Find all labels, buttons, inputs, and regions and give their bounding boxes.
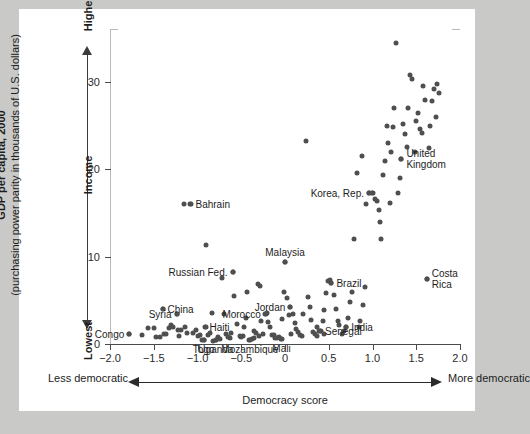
- x-tick: [110, 345, 111, 350]
- data-point: [392, 106, 397, 111]
- data-point: [234, 321, 239, 326]
- data-point: [352, 237, 357, 242]
- data-point: [347, 300, 352, 305]
- data-point: [360, 154, 365, 159]
- data-point: [318, 328, 323, 333]
- data-point: [394, 40, 399, 45]
- data-point: [332, 293, 337, 298]
- y-tick: [105, 344, 111, 345]
- democracy-arrow-line: [138, 382, 432, 383]
- data-point: [181, 202, 186, 207]
- data-point: [433, 115, 438, 120]
- data-point: [430, 99, 435, 104]
- data-point: [428, 123, 433, 128]
- data-point: [419, 130, 424, 135]
- data-point: [309, 318, 314, 323]
- data-point: [388, 200, 393, 205]
- data-point: [164, 332, 169, 337]
- data-point: [360, 302, 365, 307]
- data-point: [416, 110, 421, 115]
- data-point: [374, 198, 379, 203]
- data-point: [183, 324, 188, 329]
- point-label: Bahrain: [196, 199, 230, 210]
- data-point: [329, 280, 334, 285]
- x-tick: [329, 345, 330, 350]
- data-point: [185, 330, 190, 335]
- x-tick-label: −1.0: [187, 352, 209, 364]
- data-point: [324, 291, 329, 296]
- data-point: [409, 76, 414, 81]
- arrow-right-icon: [431, 377, 442, 387]
- data-point: [435, 81, 440, 86]
- data-point: [395, 190, 400, 195]
- x-tick-label: 2.0: [452, 352, 467, 364]
- data-point: [333, 307, 338, 312]
- data-point: [256, 334, 261, 339]
- data-point: [382, 158, 387, 163]
- data-point: [257, 284, 262, 289]
- point-label: Costa Rica: [432, 268, 458, 290]
- y-tick: [105, 257, 111, 258]
- point-label: Brazil: [336, 277, 361, 288]
- plot-frame-top-right-tick: [452, 29, 460, 30]
- data-point: [230, 269, 235, 274]
- x-tick-label: −1.5: [143, 352, 165, 364]
- data-point: [127, 331, 132, 336]
- x-tick-label: 0.5: [321, 352, 336, 364]
- y-tick-label: 30: [0, 76, 100, 88]
- data-point: [268, 324, 273, 329]
- data-point: [437, 90, 442, 95]
- data-point: [371, 190, 376, 195]
- x-tick: [373, 345, 374, 350]
- data-point: [402, 132, 407, 137]
- data-point: [346, 315, 351, 320]
- data-point: [431, 87, 436, 92]
- data-point: [145, 326, 150, 331]
- data-point: [388, 149, 393, 154]
- x-tick: [241, 345, 242, 350]
- x-tick-label: −0.5: [230, 352, 252, 364]
- y-tick-label: 0: [0, 338, 100, 350]
- data-point: [367, 190, 372, 195]
- data-point: [424, 277, 429, 282]
- data-point: [232, 293, 237, 298]
- point-label: Malaysia: [265, 247, 304, 258]
- data-point: [362, 285, 367, 290]
- y-tick-label: 10: [0, 251, 100, 263]
- plot-area: CongoSyriaChinaBahrainRussian Fed.HaitiT…: [110, 29, 460, 344]
- data-point: [381, 172, 386, 177]
- data-point: [401, 122, 406, 127]
- data-point: [364, 202, 369, 207]
- x-tick: [460, 345, 461, 350]
- data-point: [204, 243, 209, 248]
- data-point: [193, 328, 198, 333]
- data-point: [350, 289, 355, 294]
- data-point: [261, 332, 266, 337]
- data-point: [177, 334, 182, 339]
- democracy-direction-arrow: [110, 375, 460, 391]
- data-point: [292, 321, 297, 326]
- x-axis-title: Democracy score: [110, 394, 460, 406]
- data-point: [209, 311, 214, 316]
- point-label: United Kingdom: [406, 148, 445, 170]
- x-tick: [198, 345, 199, 350]
- data-point: [284, 295, 289, 300]
- data-point: [390, 125, 395, 130]
- data-point: [305, 294, 310, 299]
- label-less-democratic: Less democratic: [48, 372, 128, 384]
- data-point: [421, 84, 426, 89]
- data-point: [379, 237, 384, 242]
- data-point: [314, 334, 319, 339]
- point-label: Korea, Rep.: [311, 187, 364, 198]
- data-point: [406, 106, 411, 111]
- data-point: [201, 337, 206, 342]
- data-point: [322, 307, 327, 312]
- data-point: [397, 176, 402, 181]
- data-point: [376, 208, 381, 213]
- data-point: [140, 333, 145, 338]
- data-point: [414, 119, 419, 124]
- data-point: [377, 219, 382, 224]
- point-label: China: [168, 304, 194, 315]
- x-tick: [416, 345, 417, 350]
